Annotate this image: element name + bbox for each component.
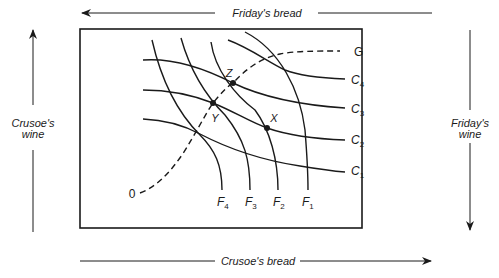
f1-label: F1 — [302, 195, 314, 211]
top-axis-label: Friday's bread — [232, 7, 302, 19]
point-y-label: Y — [211, 112, 219, 124]
left-axis-label-line2: wine — [22, 128, 45, 140]
point-z-dot — [230, 80, 236, 86]
point-x-label: X — [269, 112, 278, 124]
right-axis-label-line2: wine — [459, 128, 482, 140]
crusoe-curve-c1 — [143, 119, 345, 172]
point-x-dot — [264, 125, 270, 131]
contract-curve-start-label: 0 — [129, 187, 136, 201]
point-y-dot — [210, 100, 216, 106]
f4-label: F4 — [217, 195, 229, 211]
f2-label: F2 — [273, 195, 285, 211]
point-z-label: Z — [225, 67, 234, 79]
f3-label: F3 — [245, 195, 257, 211]
edgeworth-box-diagram: Friday's bread Crusoe's bread Crusoe's w… — [0, 0, 499, 278]
contract-curve-end-label: G — [354, 45, 363, 59]
friday-curve-f2 — [211, 42, 278, 190]
bottom-axis-label: Crusoe's bread — [221, 255, 296, 267]
